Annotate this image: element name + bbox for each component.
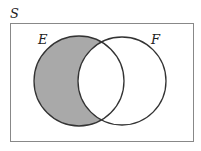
- venn-diagram: S E F: [0, 0, 201, 151]
- set-f-label: F: [150, 32, 161, 47]
- set-e-label: E: [37, 32, 48, 47]
- universe-label: S: [10, 6, 19, 21]
